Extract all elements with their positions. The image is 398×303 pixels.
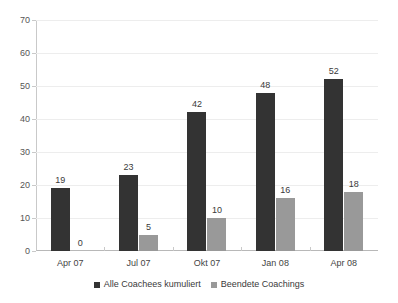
y-tick-label: 30: [20, 148, 30, 157]
bar-pair: 4816: [241, 20, 309, 251]
bar: [276, 198, 295, 251]
x-axis-category-label: Okt 07: [173, 259, 241, 268]
bar-pair: 190: [36, 20, 104, 251]
bar-pair: 5218: [310, 20, 378, 251]
y-tick-label: 70: [20, 16, 30, 25]
bar-pair: 235: [104, 20, 172, 251]
x-axis-category-label: Jan 08: [241, 259, 309, 268]
bar-value-label: 18: [344, 180, 363, 189]
bar-value-label: 23: [119, 163, 138, 172]
bar-value-label: 0: [71, 239, 90, 248]
legend-item[interactable]: Beendete Coachings: [211, 280, 305, 289]
bar: [256, 93, 275, 251]
bar-value-label: 19: [51, 176, 70, 185]
legend-swatch-icon: [211, 282, 217, 288]
bar-value-label: 16: [276, 186, 295, 195]
y-tick-label: 10: [20, 214, 30, 223]
y-tick-label: 50: [20, 82, 30, 91]
bar: [344, 192, 363, 251]
y-tick-label: 60: [20, 49, 30, 58]
x-axis-category-label: Apr 07: [36, 259, 104, 268]
y-tick-label: 0: [25, 247, 30, 256]
category-group: 5218Apr 08: [310, 20, 378, 251]
bar-chart-figure: 010203040506070 190Apr 07235Jul 074210Ok…: [0, 0, 398, 303]
category-group: 4210Okt 07: [173, 20, 241, 251]
legend-label: Beendete Coachings: [221, 280, 305, 289]
legend-swatch-icon: [94, 282, 100, 288]
chart-legend: Alle Coachees kumuliertBeendete Coaching…: [0, 280, 398, 289]
y-tick-mark: [32, 251, 36, 252]
category-group: 235Jul 07: [104, 20, 172, 251]
x-axis-category-label: Apr 08: [310, 259, 378, 268]
plot-wrapper: 010203040506070 190Apr 07235Jul 074210Ok…: [36, 20, 378, 251]
bar-value-label: 42: [187, 100, 206, 109]
category-group: 4816Jan 08: [241, 20, 309, 251]
category-group: 190Apr 07: [36, 20, 104, 251]
bar-value-label: 10: [207, 206, 226, 215]
bar: [119, 175, 138, 251]
x-axis-category-label: Jul 07: [104, 259, 172, 268]
bar-pair: 4210: [173, 20, 241, 251]
y-tick-label: 20: [20, 181, 30, 190]
legend-label: Alle Coachees kumuliert: [104, 280, 201, 289]
bar-value-label: 48: [256, 81, 275, 90]
bar-value-label: 52: [324, 67, 343, 76]
bar: [187, 112, 206, 251]
y-tick-label: 40: [20, 115, 30, 124]
bar-value-label: 5: [139, 223, 158, 232]
legend-item[interactable]: Alle Coachees kumuliert: [94, 280, 201, 289]
bar: [324, 79, 343, 251]
bar: [51, 188, 70, 251]
bar: [207, 218, 226, 251]
bar: [139, 235, 158, 252]
